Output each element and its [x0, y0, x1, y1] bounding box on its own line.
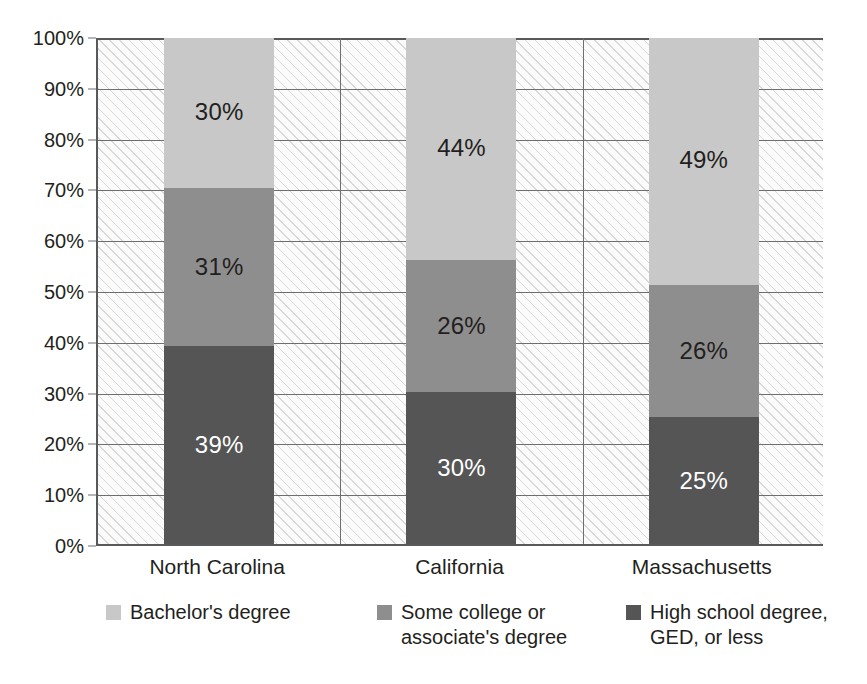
y-axis-tick-label: 0%: [0, 536, 84, 556]
plot-area: 30%31%39%44%26%30%49%26%25%: [96, 38, 823, 546]
bar-stack[interactable]: 30%31%39%: [164, 38, 274, 544]
bar-segment-highschool[interactable]: 30%: [406, 392, 516, 544]
bar-segment-value-label: 39%: [195, 433, 244, 457]
y-axis-tick-mark: [88, 38, 96, 39]
bar-segment-value-label: 25%: [679, 469, 728, 493]
bar-segment-value-label: 30%: [195, 100, 244, 124]
bar-segment-value-label: 49%: [679, 148, 728, 172]
bar-segment-value-label: 44%: [437, 136, 486, 160]
bar-stack[interactable]: 44%26%30%: [406, 38, 516, 544]
y-axis-tick-label: 80%: [0, 130, 84, 150]
bar-segment-somecoll[interactable]: 31%: [164, 188, 274, 345]
y-axis-tick-label: 30%: [0, 384, 84, 404]
chart-legend: Bachelor's degreeSome college or associa…: [96, 600, 856, 672]
y-axis-tick-mark: [88, 190, 96, 191]
y-axis-tick-mark: [88, 139, 96, 140]
x-axis-category-label: Massachusetts: [581, 552, 823, 582]
y-axis-tick-label: 20%: [0, 434, 84, 454]
y-axis-tick-mark: [88, 241, 96, 242]
legend-swatch-icon: [626, 605, 641, 620]
y-axis-tick-mark: [88, 342, 96, 343]
bar-segment-value-label: 26%: [437, 314, 486, 338]
legend-swatch-icon: [377, 605, 392, 620]
y-axis-tick-label: 70%: [0, 180, 84, 200]
x-axis-category-label: North Carolina: [96, 552, 338, 582]
bar-segment-bachelors[interactable]: 44%: [406, 38, 516, 260]
y-axis-tick-label: 60%: [0, 231, 84, 251]
bar-segment-highschool[interactable]: 39%: [164, 346, 274, 544]
y-axis-tick-mark: [88, 393, 96, 394]
bar-segment-value-label: 26%: [679, 339, 728, 363]
x-axis-category-label: California: [338, 552, 580, 582]
bar-segment-somecoll[interactable]: 26%: [406, 260, 516, 392]
y-axis-tick-mark: [88, 88, 96, 89]
x-axis: North CarolinaCaliforniaMassachusetts: [96, 552, 823, 586]
y-axis-tick-label: 10%: [0, 485, 84, 505]
y-axis-tick-mark: [88, 546, 96, 547]
y-axis-tick-mark: [88, 444, 96, 445]
bar-group: 49%26%25%: [583, 38, 823, 544]
y-axis-tick-label: 100%: [0, 28, 84, 48]
legend-item-bachelors[interactable]: Bachelor's degree: [106, 600, 291, 625]
legend-label: High school degree, GED, or less: [650, 600, 828, 650]
y-axis-tick-mark: [88, 495, 96, 496]
legend-item-highschool[interactable]: High school degree, GED, or less: [626, 600, 828, 650]
legend-swatch-icon: [106, 605, 121, 620]
stacked-bar-chart: 100%90%80%70%60%50%40%30%20%10%0% 30%31%…: [0, 0, 867, 684]
y-axis-tick-label: 40%: [0, 333, 84, 353]
y-axis: 100%90%80%70%60%50%40%30%20%10%0%: [0, 38, 84, 546]
bar-segment-value-label: 30%: [437, 456, 486, 480]
y-axis-tick-mark: [88, 292, 96, 293]
legend-item-somecoll[interactable]: Some college or associate's degree: [377, 600, 567, 650]
bar-segment-somecoll[interactable]: 26%: [649, 285, 759, 417]
bar-segment-bachelors[interactable]: 30%: [164, 38, 274, 188]
y-axis-tick-label: 90%: [0, 79, 84, 99]
bar-segment-bachelors[interactable]: 49%: [649, 38, 759, 285]
bar-group: 30%31%39%: [98, 38, 340, 544]
bar-stack[interactable]: 49%26%25%: [649, 38, 759, 544]
y-axis-tick-label: 50%: [0, 282, 84, 302]
legend-label: Bachelor's degree: [130, 600, 291, 625]
bar-segment-highschool[interactable]: 25%: [649, 417, 759, 544]
bar-group: 44%26%30%: [340, 38, 582, 544]
legend-label: Some college or associate's degree: [401, 600, 567, 650]
bar-segment-value-label: 31%: [195, 255, 244, 279]
